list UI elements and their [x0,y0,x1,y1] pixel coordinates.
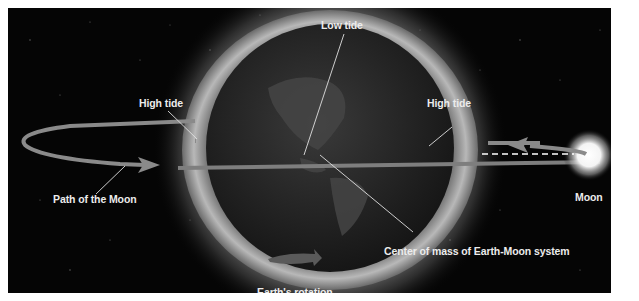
label-center-of-mass: Center of mass of Earth-Moon system [384,245,570,257]
moon-body [563,129,611,181]
label-high-tide-left: High tide [139,97,183,109]
label-high-tide-right: High tide [427,97,471,109]
label-moon: Moon [575,191,603,203]
diagram-panel: Low tide High tide High tide Path of the… [8,8,611,293]
earth-globe [206,24,454,272]
label-path-of-the-moon: Path of the Moon [53,193,137,205]
label-low-tide: Low tide [321,19,363,31]
label-earths-rotation: Earth's rotation [257,286,333,293]
